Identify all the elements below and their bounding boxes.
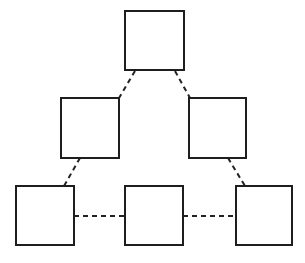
dashed-connector-mid-right-to-bottom-right xyxy=(228,158,245,186)
node-box-mid-right xyxy=(189,98,246,158)
tree-diagram xyxy=(0,0,305,263)
node-box-bottom-right xyxy=(236,186,292,245)
dashed-connector-top-to-mid-right xyxy=(175,71,190,98)
node-box-bottom-middle xyxy=(125,186,183,245)
node-box-bottom-left xyxy=(16,186,74,245)
node-group xyxy=(16,11,292,245)
dashed-connector-top-to-mid-left xyxy=(119,71,135,98)
dashed-connector-mid-left-to-bottom-left xyxy=(64,158,80,186)
node-box-top xyxy=(125,11,184,70)
node-box-mid-left xyxy=(61,98,119,158)
